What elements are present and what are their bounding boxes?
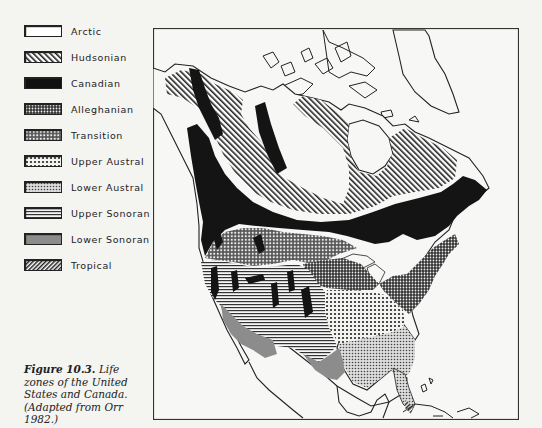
upper-austral-swatch-icon xyxy=(24,155,62,167)
legend-item-lower-austral: Lower Austral xyxy=(24,180,144,194)
figure-caption: Figure 10.3. Life zones of the United St… xyxy=(24,363,149,426)
tropical-swatch-icon xyxy=(24,259,62,271)
legend-item-canadian: Canadian xyxy=(24,76,121,90)
lower-austral-swatch-icon xyxy=(24,181,62,193)
legend-item-upper-austral: Upper Austral xyxy=(24,154,144,168)
legend-label: Upper Sonoran xyxy=(71,208,150,219)
legend-item-lower-sonoran: Lower Sonoran xyxy=(24,232,150,246)
legend-label: Transition xyxy=(71,130,123,141)
life-zones-map xyxy=(153,28,519,420)
upper-sonoran-swatch-icon xyxy=(24,207,62,219)
hudsonian-swatch-icon xyxy=(24,51,62,63)
legend-label: Hudsonian xyxy=(71,52,127,63)
legend-item-hudsonian: Hudsonian xyxy=(24,50,127,64)
transition-swatch-icon xyxy=(24,129,62,141)
legend-label: Lower Austral xyxy=(71,182,144,193)
legend-label: Upper Austral xyxy=(71,156,144,167)
legend-label: Arctic xyxy=(71,26,102,37)
legend-item-transition: Transition xyxy=(24,128,123,142)
legend-item-tropical: Tropical xyxy=(24,258,112,272)
alleghanian-swatch-icon xyxy=(24,103,62,115)
legend-label: Tropical xyxy=(71,260,112,271)
lower-sonoran-swatch-icon xyxy=(24,233,62,245)
north-america-map xyxy=(153,28,519,420)
legend-label: Canadian xyxy=(71,78,121,89)
legend-label: Lower Sonoran xyxy=(71,234,150,245)
canadian-swatch-icon xyxy=(24,77,62,89)
arctic-swatch-icon xyxy=(24,25,62,37)
legend-item-arctic: Arctic xyxy=(24,24,102,38)
figure-label: Figure 10.3. xyxy=(24,363,96,375)
legend-label: Alleghanian xyxy=(71,104,134,115)
legend-item-upper-sonoran: Upper Sonoran xyxy=(24,206,150,220)
legend-item-alleghanian: Alleghanian xyxy=(24,102,134,116)
